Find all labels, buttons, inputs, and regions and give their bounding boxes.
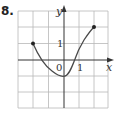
- endpoint-left: [31, 42, 35, 46]
- x-axis-label: x: [106, 61, 113, 74]
- y-axis-arrow-icon: [62, 5, 67, 12]
- origin-label: 0: [56, 62, 62, 73]
- endpoint-right: [92, 25, 96, 29]
- y-tick-label-1: 1: [57, 38, 63, 49]
- y-axis-label: y: [55, 5, 63, 18]
- axes: [18, 9, 110, 108]
- x-tick-label-1: 1: [77, 62, 83, 73]
- function-graph: y x 0 1 1: [0, 0, 120, 115]
